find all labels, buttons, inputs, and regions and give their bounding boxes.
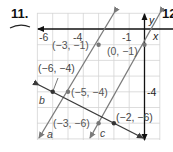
underline-swoosh (10, 25, 30, 28)
label-neg3-neg1: (−3, −1) (52, 39, 89, 51)
line-b-label: b (39, 94, 45, 106)
line-a-label: a (47, 128, 53, 140)
label-neg2-neg6: (−2, −6) (116, 111, 153, 123)
x-tick-neg1: -1 (122, 31, 131, 43)
label-0-neg1: (0, −1) (107, 45, 138, 57)
point-neg3-neg6 (96, 121, 100, 125)
point-neg3-neg1 (96, 43, 100, 47)
x-tick-neg6: -6 (39, 31, 48, 43)
label-neg5-neg4: (−5, −4) (71, 86, 108, 98)
leader-line (53, 78, 58, 91)
x-axis-label: x (152, 30, 159, 42)
point-neg5-neg4 (66, 90, 70, 94)
y-tick-neg4: -4 (147, 86, 156, 98)
label-neg3-neg6: (−3, −6) (53, 117, 90, 129)
y-axis-label: y (148, 14, 155, 26)
line-c-label: c (100, 127, 106, 139)
point-0-neg1 (142, 43, 146, 47)
coordinate-graph: -6 -4 -1 -4 y x (−3, −1) (0, −1) (−6, −4… (0, 0, 173, 152)
point-neg6-neg4 (51, 90, 55, 94)
label-neg6-neg4: (−6, −4) (38, 62, 75, 74)
